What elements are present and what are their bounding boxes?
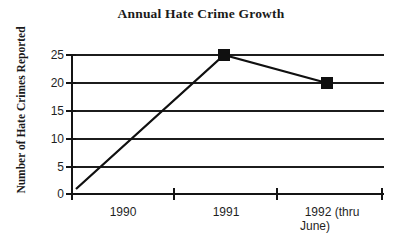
data-point-1991 [219,50,230,61]
data-point-1992 [322,78,333,89]
chart-container: Annual Hate Crime Growth Number of Hate … [0,0,402,247]
plot-area [0,0,402,247]
series-line-hate-crimes [76,55,327,189]
